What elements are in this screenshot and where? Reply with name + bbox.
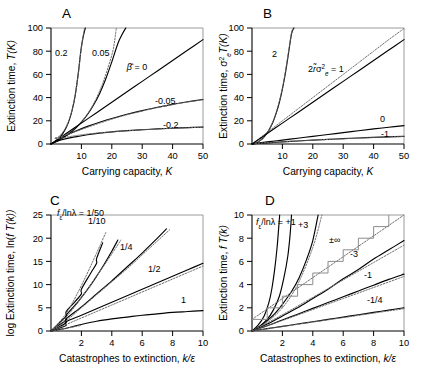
panel-d-xtick-6: 6 — [341, 338, 346, 348]
panel-c-xaxis-title: Catastrophes to extinction, k/ε — [59, 353, 195, 364]
panel-a-axes — [51, 28, 203, 144]
panel-b-label-param: 2r̃σ2e = 1 — [308, 63, 344, 77]
curve-d--3-approx — [252, 245, 404, 331]
panel-d-xtick-4: 4 — [310, 338, 315, 348]
panel-d: D 0 2 4 6 8 10 — [215, 181, 430, 366]
panel-d-ytick-8: 8 — [239, 234, 244, 244]
panel-b-curves — [252, 28, 404, 144]
panel-d-yticks: 0 2 4 6 8 10 — [234, 210, 252, 336]
panel-c-xtick-4: 4 — [109, 338, 114, 348]
panel-d-xtick-2: 2 — [280, 338, 285, 348]
curve-a--0.05-approx — [55, 100, 203, 139]
panel-c-ytick-15: 15 — [33, 257, 43, 267]
curve-c-1/4-approx — [51, 230, 170, 331]
panel-a-yaxis-title: Extinction time, T(K) — [6, 40, 17, 132]
panel-a-ytick-60: 60 — [33, 70, 43, 80]
panel-b-label-neg1: -1 — [381, 129, 389, 139]
panel-c-xtick-10: 10 — [198, 338, 208, 348]
panel-a-frame — [51, 28, 203, 144]
panel-d-label-neg3: -3 — [350, 249, 358, 259]
panel-a-xtick-30: 30 — [137, 151, 147, 161]
panel-d-ytick-10: 10 — [234, 210, 244, 220]
panel-a-label-0point05: 0.05 — [92, 48, 110, 58]
panel-c-xtick-2: 2 — [79, 338, 84, 348]
panel-b-yticks: 0 20 40 60 80 100 — [228, 23, 252, 149]
panel-d-xtick-10: 10 — [399, 338, 409, 348]
curve-b-1 — [252, 29, 404, 144]
panel-c-curve-labels: 1/10 1/4 1/2 1 fε/lnλ = 1/50 — [57, 208, 186, 305]
panel-a-label-neg0point05: -0.05 — [155, 96, 176, 106]
panel-d-ytick-0: 0 — [239, 326, 244, 336]
panel-c-ytick-20: 20 — [33, 234, 43, 244]
panel-a-xtick-50: 50 — [198, 151, 208, 161]
panel-c-plot: C 0 5 10 15 20 25 — [0, 181, 215, 370]
panel-a-xaxis-title: Carrying capacity, K — [82, 166, 174, 177]
panel-a-ytick-80: 80 — [33, 47, 43, 57]
panel-c-xtick-8: 8 — [170, 338, 175, 348]
curve-b-2 — [252, 28, 294, 144]
panel-d-label-plus3: +3 — [298, 220, 308, 230]
panel-b-ytick-60: 60 — [234, 70, 244, 80]
figure-container: A 0 20 40 60 80 100 — [0, 0, 431, 370]
panel-b-xaxis-title: Carrying capacity, K — [283, 166, 375, 177]
panel-d-label-neg1: -1 — [364, 270, 372, 280]
panel-b-ytick-40: 40 — [234, 93, 244, 103]
panel-c-ytick-10: 10 — [33, 280, 43, 290]
curve-b-2-approx — [255, 28, 293, 143]
panel-b-xtick-10: 10 — [277, 151, 287, 161]
panel-d-xticks: 2 4 6 8 10 — [280, 331, 409, 348]
panel-a-xtick-10: 10 — [76, 151, 86, 161]
panel-d-ytick-6: 6 — [239, 257, 244, 267]
panel-c-xtick-6: 6 — [140, 338, 145, 348]
panel-c: C 0 5 10 15 20 25 — [0, 181, 215, 366]
panel-d-xtick-8: 8 — [371, 338, 376, 348]
panel-a-curves — [51, 28, 203, 144]
panel-d-ytick-4: 4 — [239, 280, 244, 290]
panel-d-label-neg1over4: -1/4 — [367, 295, 383, 305]
panel-c-ytick-25: 25 — [33, 210, 43, 220]
panel-d-letter: D — [265, 193, 275, 208]
panel-b-xticks: 10 20 30 40 50 — [277, 144, 409, 161]
panel-a-ytick-100: 100 — [27, 23, 43, 33]
panel-a-yticks: 0 20 40 60 80 100 — [27, 23, 51, 149]
curve-a-0.2-approx — [55, 28, 84, 138]
panel-b-label-0: 0 — [380, 114, 385, 124]
panel-b-ytick-80: 80 — [234, 47, 244, 57]
panel-b-ytick-0: 0 — [239, 139, 244, 149]
panel-a-xtick-20: 20 — [107, 151, 117, 161]
panel-b-xtick-30: 30 — [338, 151, 348, 161]
panel-a-ytick-40: 40 — [33, 93, 43, 103]
panel-a-label-beta: β̂ = 0 — [126, 62, 147, 72]
panel-a-ytick-20: 20 — [33, 116, 43, 126]
panel-d-label-pm-inf: ±∞ — [329, 235, 340, 245]
panel-a-letter: A — [62, 6, 71, 21]
panel-a-xticks: 10 20 30 40 50 — [76, 144, 208, 161]
panel-d-plot: D 0 2 4 6 8 10 — [215, 181, 430, 370]
curve-d--3 — [252, 241, 404, 331]
panel-b-xtick-20: 20 — [308, 151, 318, 161]
panel-d-xaxis-title: Catastrophes to extinction, k/ε — [260, 353, 396, 364]
curve-c-1/4 — [51, 229, 167, 331]
panel-b-yaxis-title: Extinction time, σ2eT(K) — [218, 33, 232, 138]
panel-b-ytick-100: 100 — [228, 23, 244, 33]
panel-c-yticks: 0 5 10 15 20 25 — [33, 210, 51, 336]
panel-d-ytick-2: 2 — [239, 303, 244, 313]
panel-c-ytick-5: 5 — [38, 303, 43, 313]
panel-a-plot: A 0 20 40 60 80 100 — [0, 0, 215, 185]
curve-a-0.05-approx — [55, 28, 116, 138]
panel-a: A 0 20 40 60 80 100 — [0, 0, 215, 185]
panel-b-ytick-20: 20 — [234, 116, 244, 126]
panel-c-letter: C — [50, 193, 60, 208]
panel-b-xtick-50: 50 — [399, 151, 409, 161]
panel-b: B 0 20 40 60 80 100 — [215, 0, 430, 185]
panel-d-curve-labels: +3 ±∞ -3 -1 -1/4 fε/lnλ = +1 — [256, 217, 383, 305]
panel-a-xtick-40: 40 — [167, 151, 177, 161]
panel-b-xtick-40: 40 — [368, 151, 378, 161]
panel-a-ytick-0: 0 — [38, 139, 43, 149]
panel-b-label-2: 2 — [272, 49, 277, 59]
panel-b-letter: B — [263, 6, 272, 21]
panel-c-yaxis-title: log Extinction time, ln(f T(k)) — [5, 210, 16, 337]
panel-b-plot: B 0 20 40 60 80 100 — [215, 0, 430, 185]
panel-c-label-1over4: 1/4 — [120, 242, 133, 252]
panel-d-yaxis-title: Extinction time, f T(k) — [218, 225, 229, 321]
